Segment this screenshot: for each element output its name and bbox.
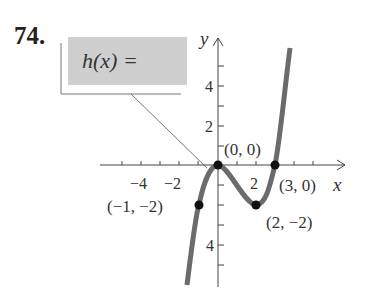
point-origin [214, 161, 223, 170]
label-neg1-neg2: (−1, −2) [107, 197, 163, 216]
x-tick-neg4: −4 [130, 175, 147, 192]
graph: y x −4 −2 2 4 2 4 (0, 0) (3, 0) (−1, −2)… [0, 0, 368, 303]
label-2-neg2: (2, −2) [266, 213, 312, 232]
x-tick-neg2: −2 [164, 175, 181, 192]
y-axis-label: y [198, 28, 209, 49]
point-3-0 [271, 161, 280, 170]
y-tick-neg4: 4 [206, 237, 214, 254]
y-tick-2: 2 [205, 118, 213, 135]
x-tick-2: 2 [250, 175, 258, 192]
point-2-neg2 [252, 201, 261, 210]
callout-leader-line [131, 94, 207, 168]
label-3-0: (3, 0) [279, 176, 316, 195]
point-neg1-neg2 [195, 201, 204, 210]
label-origin: (0, 0) [224, 140, 261, 159]
x-axis-label: x [332, 174, 342, 195]
y-tick-4: 4 [205, 78, 213, 95]
